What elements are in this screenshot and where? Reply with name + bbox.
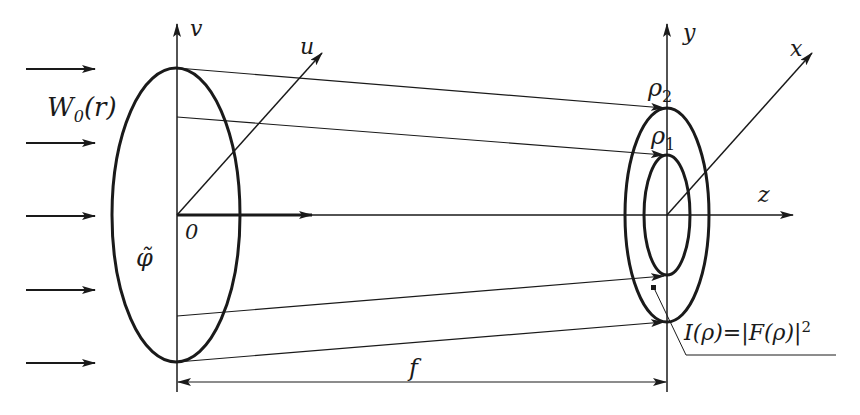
rho2-main: ρ	[648, 74, 662, 102]
beam-label: W0(r)	[47, 94, 117, 120]
intensity-sup: 2	[801, 318, 811, 336]
intensity-main: I(ρ)=|F(ρ)|	[684, 320, 801, 345]
intensity-label: I(ρ)=|F(ρ)|2	[684, 322, 811, 344]
u-axis-label: u	[300, 36, 314, 58]
y-axis-label: y	[683, 22, 695, 44]
ray-to-rho2-bottom	[177, 322, 664, 362]
focal-length-label: f	[409, 356, 418, 380]
optical-diagram	[0, 0, 860, 415]
rho2-sub: 2	[662, 87, 672, 106]
beam-label-main: W	[47, 92, 74, 122]
rho1-main: ρ	[651, 122, 665, 150]
z-axis-label: z	[758, 184, 770, 206]
phase-label: φ̃	[136, 246, 153, 270]
rho1-sub: 1	[665, 135, 675, 154]
leader-dot	[651, 285, 656, 290]
rho1-label: ρ1	[651, 124, 675, 148]
beam-label-arg: (r)	[84, 92, 117, 122]
x-axis	[667, 53, 812, 215]
ray-to-rho1-top	[177, 117, 664, 155]
v-axis-label: v	[190, 18, 202, 40]
beam-label-sub: 0	[74, 107, 84, 126]
x-axis-label: x	[790, 38, 802, 60]
rho2-label: ρ2	[648, 76, 672, 100]
origin-label: 0	[185, 222, 198, 243]
ray-to-rho1-bottom	[177, 276, 664, 316]
ray-to-rho2-top	[177, 68, 664, 108]
